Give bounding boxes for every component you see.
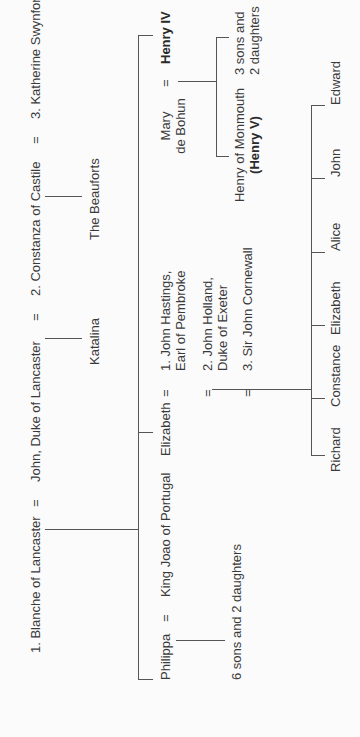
descent-line-beauforts	[45, 196, 82, 197]
tick-other-children	[216, 37, 229, 38]
child-line1: 3 sons and	[232, 6, 247, 75]
spouse-line1: Mary	[158, 95, 173, 157]
child-line2: 2 daughters	[247, 6, 262, 75]
person-philippa: Philippa	[158, 634, 173, 680]
person-constanza-of-castile: 2. Constanza of Castile	[28, 162, 43, 296]
tick-henry-iv	[138, 35, 153, 36]
children-philippa: 6 sons and 2 daughters	[229, 544, 244, 680]
child-richard: Richard	[328, 427, 343, 472]
person-elizabeth: Elizabeth	[158, 403, 173, 456]
tick-alice	[311, 252, 325, 253]
child-henry-of-monmouth: Henry of Monmouth (Henry V)	[232, 87, 262, 203]
spouse-john-hastings: 1. John Hastings, Earl of Pembroke	[158, 271, 188, 371]
marriage-symbol: =	[158, 614, 173, 622]
descent-line-katalina	[45, 338, 82, 339]
spouse-line2: Earl of Pembroke	[173, 271, 188, 371]
tick-constance	[311, 398, 325, 399]
person-king-joao-of-portugal: King Joao of Portugal	[158, 473, 173, 597]
person-mary-de-bohun: Mary de Bohun	[158, 95, 188, 157]
marriage-symbol: =	[158, 389, 173, 397]
person-blanche-of-lancaster: 1. Blanche of Lancaster	[28, 516, 43, 653]
children-henry-iv-others: 3 sons and 2 daughters	[232, 6, 262, 75]
person-henry-iv: Henry IV	[158, 11, 173, 64]
descent-line-blanche-john	[45, 529, 138, 530]
family-tree-diagram: 1. Blanche of Lancaster = John, Duke of …	[0, 0, 360, 737]
marriage-symbol: =	[28, 313, 43, 321]
sibling-bar-henry-iv-children	[216, 37, 217, 157]
child-edward: Edward	[328, 61, 343, 105]
marriage-symbol: =	[28, 499, 43, 507]
descent-line-henry-iv	[178, 81, 216, 82]
spouse-sir-john-cornewall: 3. Sir John Cornewall	[240, 247, 255, 371]
child-line2-bold: (Henry V)	[247, 87, 262, 203]
tick-elizabeth-child	[311, 325, 325, 326]
sibling-bar-elizabeth-children	[311, 105, 312, 456]
child-the-beauforts: The Beauforts	[87, 158, 102, 240]
marriage-symbol: =	[158, 79, 173, 87]
tick-richard	[311, 455, 325, 456]
person-john-duke-of-lancaster: John, Duke of Lancaster	[28, 341, 43, 482]
child-alice: Alice	[328, 223, 343, 251]
marriage-symbol: =	[240, 389, 255, 397]
descent-line-philippa	[176, 640, 225, 641]
marriage-symbol: =	[200, 389, 215, 397]
child-katalina: Katalina	[87, 318, 102, 365]
person-katherine-swynford: 3. Katherine Swynford	[28, 0, 43, 119]
spouse-line1: 2. John Holland,	[200, 277, 215, 371]
descent-line-elizabeth	[212, 389, 311, 390]
spouse-john-holland: 2. John Holland, Duke of Exeter	[200, 277, 230, 371]
sibling-bar-generation-2	[138, 35, 139, 680]
tick-john	[311, 178, 325, 179]
marriage-symbol: =	[28, 136, 43, 144]
child-line1: Henry of Monmouth	[232, 87, 247, 203]
tick-edward	[311, 105, 325, 106]
spouse-line2: Duke of Exeter	[215, 277, 230, 371]
tick-philippa	[138, 679, 153, 680]
child-john: John	[328, 149, 343, 177]
child-elizabeth: Elizabeth	[328, 282, 343, 335]
child-constance: Constance	[328, 345, 343, 407]
spouse-line2: de Bohun	[173, 95, 188, 157]
tick-henry-of-monmouth	[216, 156, 229, 157]
spouse-line1: 1. John Hastings,	[158, 271, 173, 371]
tick-elizabeth	[138, 432, 153, 433]
